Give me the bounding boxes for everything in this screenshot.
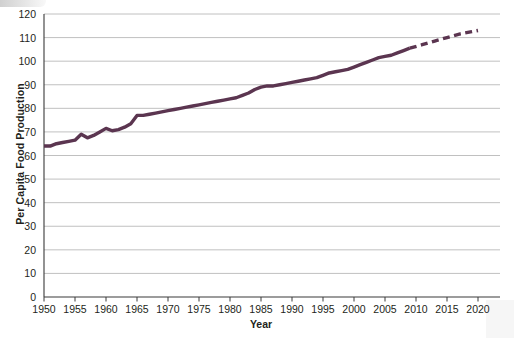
observed-trend-line	[44, 48, 410, 146]
y-axis-tick-label: 60	[6, 151, 36, 162]
gridlines	[44, 14, 500, 273]
y-axis-tick-label: 100	[6, 56, 36, 67]
y-axis-tick-label: 50	[6, 174, 36, 185]
y-axis-tick-label: 70	[6, 127, 36, 138]
y-axis-tick-label: 80	[6, 103, 36, 114]
y-axis-tick-label: 0	[6, 292, 36, 303]
data-series-layer	[44, 31, 478, 147]
y-axis-tick-label: 10	[6, 268, 36, 279]
y-axis-tick-label: 30	[6, 221, 36, 232]
y-axis-tick-label: 110	[6, 33, 36, 44]
plot-area	[0, 0, 514, 338]
x-axis-ticks	[44, 297, 478, 302]
y-axis-tick-label: 40	[6, 198, 36, 209]
x-axis-tick-label: 2020	[458, 304, 498, 315]
y-axis-tick-label: 20	[6, 245, 36, 256]
y-axis-tick-label: 90	[6, 80, 36, 91]
per-capita-food-production-chart: Per Capita Food Production Year 12011010…	[0, 0, 514, 338]
y-axis-tick-label: 120	[6, 9, 36, 20]
projected-trend-line	[410, 31, 478, 49]
